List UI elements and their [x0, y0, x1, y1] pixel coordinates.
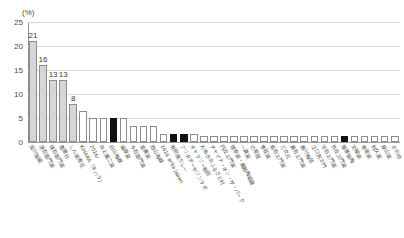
x-label-slot: その他	[390, 144, 400, 238]
bar[interactable]	[89, 118, 97, 142]
x-label-slot: 深川製磁	[28, 144, 38, 238]
bar[interactable]	[59, 80, 67, 142]
bar[interactable]	[250, 136, 258, 142]
bar[interactable]	[331, 136, 339, 142]
bar[interactable]	[351, 136, 359, 142]
bar-slot	[88, 22, 98, 142]
bar-slot	[299, 22, 309, 142]
bar[interactable]	[130, 126, 138, 142]
bar[interactable]	[210, 136, 218, 142]
bar[interactable]	[220, 136, 228, 142]
y-axis-unit-label: (%)	[22, 8, 34, 17]
bar[interactable]	[150, 126, 158, 142]
x-label-slot: 西山陶器	[149, 144, 159, 238]
bar[interactable]	[160, 134, 168, 142]
x-label-slot: しん窯青花	[68, 144, 78, 238]
bar-slot: 13	[48, 22, 58, 142]
bar-slot	[199, 22, 209, 142]
x-label-slot: 香蘭社	[58, 144, 68, 238]
bar-slot	[108, 22, 118, 142]
x-label-slot: 文翔窯	[350, 144, 360, 238]
bar-slot	[360, 22, 370, 142]
bar[interactable]	[120, 118, 128, 142]
bar-slot	[390, 22, 400, 142]
bar[interactable]	[300, 136, 308, 142]
bar-slot	[169, 22, 179, 142]
bar[interactable]	[311, 136, 319, 142]
x-label-slot: 白山陶器	[108, 144, 118, 238]
bar[interactable]	[49, 80, 57, 142]
bar[interactable]	[321, 136, 329, 142]
bar[interactable]	[391, 136, 399, 142]
bar[interactable]	[240, 136, 248, 142]
bar-slot	[229, 22, 239, 142]
bar-slot	[149, 22, 159, 142]
bar-slot	[380, 22, 390, 142]
x-label-slot: 金善窯	[139, 144, 149, 238]
x-label-slot: 岩右エ門窯	[269, 144, 279, 238]
x-label-slot: 柿右衛門窯	[48, 144, 58, 238]
bar-slot	[118, 22, 128, 142]
bar[interactable]	[170, 134, 178, 142]
bar[interactable]	[110, 118, 118, 142]
bar-slot	[128, 22, 138, 142]
y-tick-label: 5	[19, 114, 23, 123]
x-label-slot: 辻常陸	[249, 144, 259, 238]
x-label-slot: 李荘窯	[259, 144, 269, 238]
bar-slot	[319, 22, 329, 142]
bar[interactable]	[361, 136, 369, 142]
bar-slot	[289, 22, 299, 142]
bar-slot: 8	[68, 22, 78, 142]
bar[interactable]	[140, 126, 148, 142]
bar[interactable]	[341, 136, 349, 142]
bar-value-label: 13	[49, 71, 58, 79]
bar[interactable]	[270, 136, 278, 142]
chart-figure: (%) 0510152025 211613138 深川製磁源右衛門窯柿右衛門窯香…	[0, 0, 404, 238]
x-label-slot: 三次元	[279, 144, 289, 238]
x-label-slot: 一真窯	[239, 144, 249, 238]
bar[interactable]	[230, 136, 238, 142]
x-label-slot: たぬきのふるさと村	[199, 144, 209, 238]
x-label-slot: アリタポーセリンラボ	[179, 144, 189, 238]
bar-slot	[279, 22, 289, 142]
bar[interactable]	[29, 41, 37, 142]
bar[interactable]	[381, 136, 389, 142]
bar-slot	[219, 22, 229, 142]
bar[interactable]	[69, 104, 77, 142]
y-axis-tick-labels: 0510152025	[0, 22, 26, 142]
x-axis-tick-labels: 深川製磁源右衛門窯柿右衛門窯香蘭社しん窯青花KIHARA（キハラ）2016/井上…	[28, 144, 400, 238]
bar-slot	[78, 22, 88, 142]
x-label-slot: 江口芳ヱ門	[310, 144, 320, 238]
y-tick-label: 10	[14, 90, 23, 99]
x-label-slot: 今右衛門窯	[129, 144, 139, 238]
bar-value-label: 21	[29, 32, 38, 40]
bar[interactable]	[200, 136, 208, 142]
y-tick-label: 25	[14, 18, 23, 27]
x-tick-label: その他	[390, 144, 402, 160]
bar[interactable]	[180, 134, 188, 142]
x-label-slot: チャイナ・オン・ザ・パーク	[209, 144, 219, 238]
bar[interactable]	[190, 134, 198, 142]
bar-slot	[139, 22, 149, 142]
x-label-slot: ギャラリー有田	[189, 144, 199, 238]
bar-slot	[370, 22, 380, 142]
bar[interactable]	[280, 136, 288, 142]
bar-slot	[350, 22, 360, 142]
x-label-slot: 有田焼カレー	[169, 144, 179, 238]
bar-slot	[339, 22, 349, 142]
bar[interactable]	[100, 118, 108, 142]
bar-slot: 21	[28, 22, 38, 142]
x-label-slot: 弥左ヱ門窯	[330, 144, 340, 238]
x-label-slot: 幸楽窯	[360, 144, 370, 238]
bar-slot	[98, 22, 108, 142]
bar[interactable]	[260, 136, 268, 142]
bar[interactable]	[39, 65, 47, 142]
bar[interactable]	[371, 136, 379, 142]
bar[interactable]	[79, 111, 87, 142]
bar-slot	[329, 22, 339, 142]
bar-slot: 16	[38, 22, 48, 142]
x-label-slot: KIHARA（キハラ）	[78, 144, 88, 238]
bar[interactable]	[290, 136, 298, 142]
bar-slot: 13	[58, 22, 68, 142]
x-label-slot: 円左エ門窯	[219, 144, 229, 238]
